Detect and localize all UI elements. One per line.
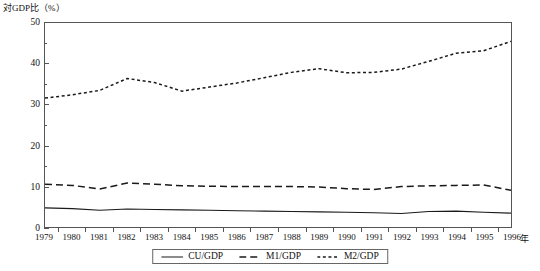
y-axis-tick-minor	[44, 84, 47, 85]
chart-legend: CU/GDPM1/GDPM2/GDP	[152, 249, 388, 264]
y-axis-tick-minor	[44, 43, 47, 44]
x-axis-tick-label: 1983	[145, 232, 163, 242]
y-axis-tick	[44, 187, 49, 188]
x-axis-tick-label: 1992	[393, 232, 411, 242]
y-axis-tick	[44, 146, 49, 147]
legend-label: M1/GDP	[266, 252, 301, 262]
x-axis-tick-label: 1991	[365, 232, 383, 242]
x-axis-tick-label: 1984	[173, 232, 191, 242]
x-axis-tick-label: 1990	[338, 232, 356, 242]
x-axis-unit-label: 年	[520, 232, 529, 245]
y-axis-tick-label: 10	[10, 182, 40, 192]
series-line-m2-gdp	[45, 41, 511, 98]
legend-item: M1/GDP	[239, 252, 301, 262]
x-axis-tick-label: 1985	[200, 232, 218, 242]
legend-label: M2/GDP	[344, 252, 379, 262]
series-container	[45, 23, 511, 227]
legend-swatch-solid	[161, 254, 183, 260]
legend-label: CU/GDP	[188, 252, 223, 262]
x-axis-tick-label: 1981	[90, 232, 108, 242]
chart-title: 対GDP比（%）	[3, 1, 65, 14]
x-axis-tick-label: 1987	[255, 232, 273, 242]
legend-item: CU/GDP	[161, 252, 223, 262]
y-axis-tick-label: 30	[10, 99, 40, 109]
legend-swatch-dotted	[317, 254, 339, 260]
x-axis-tick-label: 1989	[310, 232, 328, 242]
x-axis-tick-label: 1988	[283, 232, 301, 242]
x-axis-tick-label: 1982	[118, 232, 136, 242]
x-axis-tick-label: 1994	[448, 232, 466, 242]
series-line-cu-gdp	[45, 208, 511, 214]
x-axis-tick-label: 1986	[228, 232, 246, 242]
y-axis-tick	[44, 22, 49, 23]
y-axis-tick-label: 40	[10, 58, 40, 68]
y-axis-tick-label: 50	[10, 17, 40, 27]
x-axis-labels: 1979198019811982198319841985198619871988…	[0, 232, 540, 246]
plot-area	[44, 22, 512, 228]
chart-figure: 対GDP比（%） 01020304050 1979198019811982198…	[0, 0, 540, 271]
legend-swatch-dashed	[239, 254, 261, 260]
y-axis-tick	[44, 104, 49, 105]
x-axis-tick-label: 1993	[420, 232, 438, 242]
series-line-m1-gdp	[45, 183, 511, 190]
x-axis-tick-label: 1996	[503, 232, 521, 242]
y-axis-tick-minor	[44, 207, 47, 208]
y-axis-tick-minor	[44, 125, 47, 126]
x-axis-tick-label: 1980	[63, 232, 81, 242]
y-axis-tick	[44, 63, 49, 64]
x-axis-tick-label: 1995	[475, 232, 493, 242]
y-axis-tick	[44, 228, 49, 229]
y-axis-tick-minor	[44, 166, 47, 167]
x-axis-tick-label: 1979	[35, 232, 53, 242]
legend-item: M2/GDP	[317, 252, 379, 262]
y-axis-labels: 01020304050	[8, 22, 40, 228]
y-axis-tick-label: 20	[10, 141, 40, 151]
